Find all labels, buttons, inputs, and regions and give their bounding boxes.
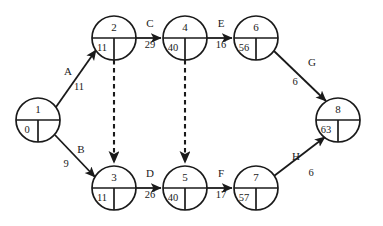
node-6-earliest-time: 56 (239, 42, 250, 53)
arc-G (274, 51, 326, 101)
node-5-label: 5 (182, 171, 188, 183)
node-4[interactable]: 4 40 (163, 16, 207, 60)
node-2-label: 2 (111, 21, 117, 33)
node-2-earliest-time: 11 (97, 42, 107, 53)
node-7-earliest-time: 57 (239, 192, 250, 203)
arc-A-duration: 11 (74, 81, 84, 92)
arc-C-name: C (146, 17, 153, 29)
arc-H-name: H (292, 150, 300, 162)
node-8-label: 8 (335, 103, 341, 115)
dummy-arc-layer (114, 60, 185, 162)
node-4-earliest-time: 40 (168, 42, 179, 53)
network-diagram-canvas: 1 0 2 11 3 11 (0, 0, 383, 226)
arc-F-duration: 17 (216, 189, 227, 200)
arc-G-duration: 6 (292, 76, 297, 87)
arc-B-line (55, 135, 95, 177)
node-3-label: 3 (111, 171, 117, 183)
node-8-earliest-time: 63 (321, 124, 332, 135)
arc-D-name: D (146, 167, 154, 179)
node-8[interactable]: 8 63 (316, 98, 360, 142)
node-6-label: 6 (253, 21, 259, 33)
node-7[interactable]: 7 57 (234, 166, 278, 210)
arc-A-name: A (64, 65, 72, 77)
node-7-label: 7 (253, 171, 259, 183)
node-1[interactable]: 1 0 (16, 98, 60, 142)
node-1-label: 1 (35, 103, 41, 115)
arc-E-duration: 16 (216, 39, 227, 50)
node-2[interactable]: 2 11 (92, 16, 136, 60)
node-3[interactable]: 3 11 (92, 166, 136, 210)
arc-D-duration: 26 (145, 189, 156, 200)
arc-A-line (56, 50, 96, 107)
arc-F-name: F (218, 167, 224, 179)
arc-H-duration: 6 (308, 167, 313, 178)
arc-C-duration: 29 (145, 39, 156, 50)
node-6[interactable]: 6 56 (234, 16, 278, 60)
arc-G-line (274, 51, 326, 101)
arc-E-name: E (218, 17, 225, 29)
arc-A (56, 50, 96, 107)
node-1-earliest-time: 0 (24, 124, 29, 135)
node-5[interactable]: 5 40 (163, 166, 207, 210)
arc-G-name: G (308, 56, 316, 68)
node-4-label: 4 (182, 21, 188, 33)
node-5-earliest-time: 40 (168, 192, 179, 203)
arc-B-name: B (77, 143, 84, 155)
node-3-earliest-time: 11 (97, 192, 107, 203)
arc-layer (55, 38, 326, 188)
network-diagram: 1 0 2 11 3 11 (0, 0, 383, 226)
node-layer: 1 0 2 11 3 11 (16, 16, 360, 210)
arc-B (55, 135, 95, 177)
arc-B-duration: 9 (63, 158, 68, 169)
